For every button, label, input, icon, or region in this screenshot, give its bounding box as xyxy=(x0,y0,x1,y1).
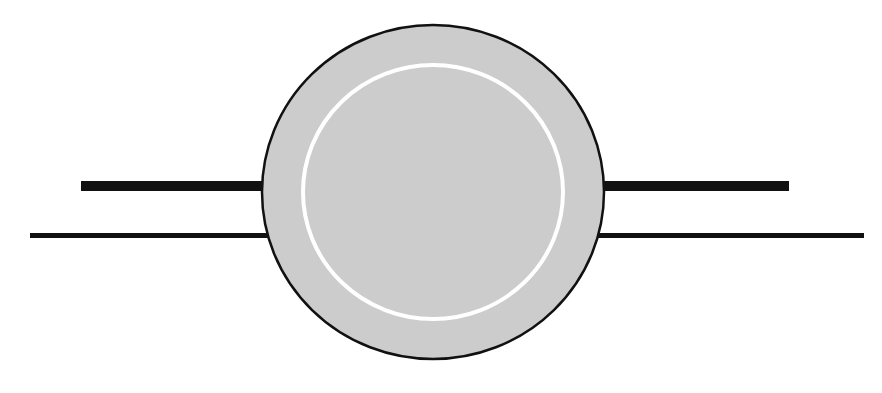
outer-circle xyxy=(262,25,604,359)
diagram-canvas xyxy=(0,0,882,393)
